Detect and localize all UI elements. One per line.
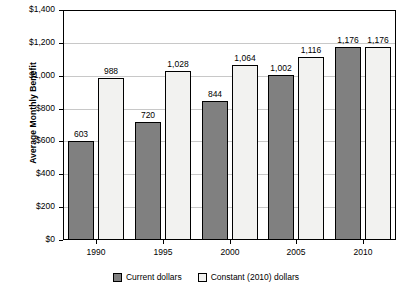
y-tick-mark <box>59 76 63 77</box>
x-tick-mark <box>96 240 97 244</box>
x-tick-mark <box>296 240 297 244</box>
bar <box>335 47 361 240</box>
x-tick-label: 1990 <box>71 247 121 257</box>
x-tick-mark <box>163 240 164 244</box>
x-tick-label: 1995 <box>138 247 188 257</box>
bar <box>98 78 124 240</box>
x-tick-label: 2010 <box>338 247 388 257</box>
y-tick-label: $1,200 <box>7 37 55 47</box>
bar-value-label: 1,064 <box>225 53 265 63</box>
bar-value-label: 603 <box>61 129 101 139</box>
bar <box>232 65 258 240</box>
y-tick-mark <box>59 10 63 11</box>
bar <box>365 47 391 240</box>
bar <box>202 101 228 240</box>
y-tick-label: $400 <box>7 168 55 178</box>
x-tick-mark <box>230 240 231 244</box>
legend-label: Constant (2010) dollars <box>211 272 299 282</box>
legend: Current dollarsConstant (2010) dollars <box>0 272 412 282</box>
bar-value-label: 1,116 <box>291 45 331 55</box>
bar-value-label: 844 <box>195 89 235 99</box>
y-tick-label: $200 <box>7 201 55 211</box>
y-tick-mark <box>59 141 63 142</box>
bar <box>298 57 324 240</box>
y-tick-mark <box>59 240 63 241</box>
bar-value-label: 988 <box>91 66 131 76</box>
x-tick-label: 2000 <box>205 247 255 257</box>
y-tick-mark <box>59 109 63 110</box>
y-tick-label: $1,000 <box>7 70 55 80</box>
bar-value-label: 720 <box>128 110 168 120</box>
bar-chart: Average Monthly Benefit $0$200$400$600$8… <box>0 0 412 305</box>
bar-value-label: 1,002 <box>261 63 301 73</box>
bar <box>135 122 161 240</box>
y-tick-mark <box>59 207 63 208</box>
bar-value-label: 1,176 <box>358 35 398 45</box>
bar <box>268 75 294 240</box>
legend-item: Current dollars <box>113 272 182 282</box>
y-tick-mark <box>59 174 63 175</box>
x-tick-label: 2005 <box>271 247 321 257</box>
bar <box>68 141 94 240</box>
legend-item: Constant (2010) dollars <box>198 272 299 282</box>
x-tick-mark <box>363 240 364 244</box>
legend-swatch <box>198 273 207 282</box>
y-tick-mark <box>59 43 63 44</box>
legend-label: Current dollars <box>126 272 182 282</box>
y-tick-label: $1,400 <box>7 4 55 14</box>
y-tick-label: $800 <box>7 103 55 113</box>
legend-swatch <box>113 273 122 282</box>
y-tick-label: $0 <box>7 234 55 244</box>
bar <box>165 71 191 240</box>
y-tick-label: $600 <box>7 135 55 145</box>
bar-value-label: 1,028 <box>158 59 198 69</box>
